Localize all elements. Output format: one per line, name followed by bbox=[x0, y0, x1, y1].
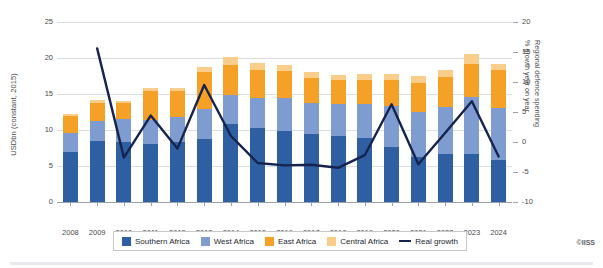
bar-column[interactable] bbox=[464, 54, 479, 202]
bar-segment bbox=[250, 63, 265, 70]
bar-segment bbox=[277, 131, 292, 202]
x-axis-tick-label: 2024 bbox=[482, 228, 516, 237]
legend-color-swatch-icon bbox=[327, 237, 336, 246]
bar-column[interactable] bbox=[304, 72, 319, 202]
y-axis-left-tick-label: 0 bbox=[31, 197, 53, 206]
legend-item-label: East Africa bbox=[278, 237, 316, 246]
bar-column[interactable] bbox=[143, 88, 158, 202]
bar-column[interactable] bbox=[331, 75, 346, 202]
x-axis-tickmark bbox=[70, 202, 71, 206]
legend-item[interactable]: Southern Africa bbox=[122, 237, 190, 246]
bar-segment bbox=[491, 108, 506, 160]
x-axis-tickmark bbox=[177, 202, 178, 206]
legend-item[interactable]: Real growth bbox=[399, 237, 458, 246]
bar-column[interactable] bbox=[90, 100, 105, 202]
bar-segment bbox=[223, 95, 238, 124]
bar-segment bbox=[464, 154, 479, 202]
bar-segment bbox=[197, 72, 212, 109]
bar-segment bbox=[438, 70, 453, 78]
bar-column[interactable] bbox=[491, 64, 506, 202]
bar-column[interactable] bbox=[170, 88, 185, 202]
gridline bbox=[57, 22, 512, 23]
bar-segment bbox=[304, 78, 319, 103]
bar-segment bbox=[331, 80, 346, 104]
bar-segment bbox=[250, 128, 265, 202]
bar-segment bbox=[197, 109, 212, 139]
bar-column[interactable] bbox=[197, 67, 212, 202]
y-axis-right-tick-label: -5 bbox=[522, 167, 546, 176]
bar-segment bbox=[411, 157, 426, 202]
bar-segment bbox=[250, 70, 265, 97]
y-axis-right-tickmark bbox=[513, 22, 518, 23]
y-axis-right-tickmark bbox=[513, 202, 518, 203]
x-axis-tickmark bbox=[151, 202, 152, 206]
gridline bbox=[57, 58, 512, 59]
bar-segment bbox=[116, 142, 131, 202]
x-axis-tickmark bbox=[258, 202, 259, 206]
legend-item-label: West Africa bbox=[214, 237, 254, 246]
bar-column[interactable] bbox=[411, 76, 426, 202]
bar-segment bbox=[411, 76, 426, 83]
y-axis-left-title: USDbn (constant, 2015) bbox=[9, 50, 18, 180]
bar-segment bbox=[464, 54, 479, 63]
bar-segment bbox=[63, 116, 78, 133]
x-axis-tickmark bbox=[124, 202, 125, 206]
bar-segment bbox=[438, 77, 453, 107]
bar-segment bbox=[331, 136, 346, 202]
legend-item-label: Southern Africa bbox=[135, 237, 190, 246]
bar-segment bbox=[170, 117, 185, 142]
bar-column[interactable] bbox=[357, 74, 372, 202]
y-axis-right-tickmark bbox=[513, 52, 518, 53]
bar-segment bbox=[411, 83, 426, 112]
bar-segment bbox=[384, 147, 399, 202]
y-axis-right-tick-label: -10 bbox=[522, 197, 546, 206]
x-axis-tickmark bbox=[285, 202, 286, 206]
legend-item[interactable]: West Africa bbox=[201, 237, 254, 246]
bar-segment bbox=[250, 98, 265, 128]
bar-segment bbox=[331, 104, 346, 136]
y-axis-right-tickmark bbox=[513, 82, 518, 83]
bar-segment bbox=[223, 65, 238, 95]
bar-segment bbox=[63, 133, 78, 152]
x-axis-tickmark bbox=[311, 202, 312, 206]
bar-segment bbox=[90, 141, 105, 202]
bar-column[interactable] bbox=[63, 114, 78, 202]
bar-segment bbox=[491, 70, 506, 107]
bar-column[interactable] bbox=[116, 101, 131, 202]
bar-column[interactable] bbox=[223, 57, 238, 202]
bar-segment bbox=[438, 107, 453, 155]
bar-segment bbox=[90, 103, 105, 121]
x-axis-tickmark bbox=[392, 202, 393, 206]
bar-segment bbox=[357, 80, 372, 104]
bar-segment bbox=[357, 104, 372, 138]
bar-segment bbox=[357, 138, 372, 202]
legend-color-swatch-icon bbox=[265, 237, 274, 246]
bar-column[interactable] bbox=[277, 65, 292, 202]
copyright-credit: ©IISS bbox=[577, 239, 595, 246]
x-axis-tickmark bbox=[445, 202, 446, 206]
bar-column[interactable] bbox=[384, 74, 399, 202]
plot-area: 2520151050 20151050-5-10 200820092010201… bbox=[57, 22, 512, 202]
bottom-divider bbox=[10, 262, 593, 265]
bar-segment bbox=[143, 120, 158, 144]
legend-item[interactable]: East Africa bbox=[265, 237, 316, 246]
legend-item[interactable]: Central Africa bbox=[327, 237, 388, 246]
bar-segment bbox=[411, 112, 426, 157]
x-axis-tickmark bbox=[499, 202, 500, 206]
bar-segment bbox=[170, 91, 185, 117]
bar-column[interactable] bbox=[438, 70, 453, 202]
x-axis-tickmark bbox=[418, 202, 419, 206]
y-axis-left-tick-label: 20 bbox=[31, 53, 53, 62]
y-axis-right-tick-label: 5 bbox=[522, 107, 546, 116]
legend-color-swatch-icon bbox=[201, 237, 210, 246]
bar-segment bbox=[277, 71, 292, 98]
x-axis-tickmark bbox=[97, 202, 98, 206]
x-axis-tickmark bbox=[338, 202, 339, 206]
y-axis-right-tick-label: 0 bbox=[522, 137, 546, 146]
x-axis-tickmark bbox=[472, 202, 473, 206]
x-axis-tickmark bbox=[204, 202, 205, 206]
legend-item-label: Central Africa bbox=[340, 237, 388, 246]
bar-column[interactable] bbox=[250, 63, 265, 202]
bar-segment bbox=[384, 106, 399, 148]
bar-segment bbox=[464, 97, 479, 154]
